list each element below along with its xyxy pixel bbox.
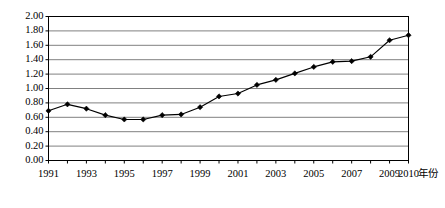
data-point-marker	[311, 64, 316, 69]
y-axis-tick-label: 0.40	[25, 126, 43, 137]
y-axis-tick-label: 0.00	[25, 155, 43, 166]
x-axis-tick-label: 1995	[104, 169, 144, 180]
x-axis-tick-label: 1991	[29, 169, 69, 180]
x-axis-tick-label: 1999	[180, 169, 220, 180]
x-axis-tick-label: 2003	[256, 169, 296, 180]
data-point-marker	[406, 33, 411, 38]
data-point-marker	[197, 105, 202, 110]
data-point-marker	[84, 106, 89, 111]
data-point-marker	[179, 112, 184, 117]
y-axis-tick-label: 0.60	[25, 112, 43, 123]
data-line	[49, 35, 409, 119]
data-point-marker	[273, 77, 278, 82]
x-axis-tick-label: 1997	[142, 169, 182, 180]
y-axis-tick-label: 0.80	[25, 97, 43, 108]
line-chart: 2.001.801.601.401.201.000.800.600.400.20…	[0, 0, 445, 208]
y-axis-tick-label: 1.40	[25, 54, 43, 65]
x-axis-tick-label: 2001	[218, 169, 258, 180]
data-point-marker	[254, 82, 259, 87]
data-point-marker	[235, 91, 240, 96]
data-point-marker	[292, 71, 297, 76]
y-axis-tick-label: 1.20	[25, 69, 43, 80]
y-axis-tick-label: 1.60	[25, 40, 43, 51]
data-point-marker	[46, 108, 51, 113]
x-axis-tick-label: 2007	[332, 169, 372, 180]
data-point-marker	[216, 94, 221, 99]
x-axis-title: 年份	[418, 169, 438, 180]
x-axis-tick-label: 1993	[66, 169, 106, 180]
y-axis-tick-label: 0.20	[25, 141, 43, 152]
y-axis-tick-label: 1.00	[25, 83, 43, 94]
y-axis-tick-label: 2.00	[25, 11, 43, 22]
x-axis-tick-label: 2005	[294, 169, 334, 180]
y-axis-tick-label: 1.80	[25, 25, 43, 36]
